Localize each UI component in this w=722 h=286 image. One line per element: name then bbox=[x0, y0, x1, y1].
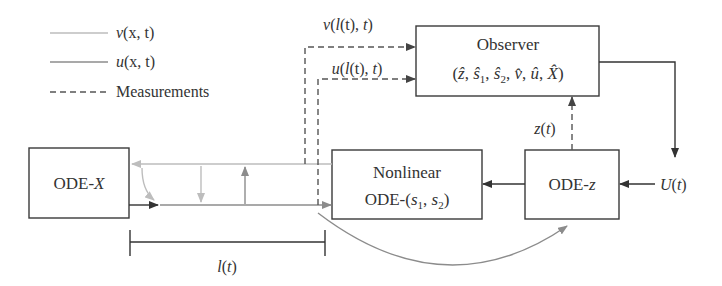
input-label: U(t) bbox=[660, 176, 687, 194]
legend-item-v: v(x, t) bbox=[50, 24, 154, 42]
observer-title: Observer bbox=[477, 35, 540, 54]
ode-x-label: ODE-X bbox=[54, 174, 106, 193]
block-diagram: v(x, t) u(x, t) Measurements ODE-X Nonli… bbox=[0, 0, 722, 286]
diagram-svg: v(x, t) u(x, t) Measurements ODE-X Nonli… bbox=[0, 0, 722, 286]
legend: v(x, t) u(x, t) Measurements bbox=[50, 24, 209, 100]
block-nonlinear-ode: Nonlinear ODE-(s1, s2) bbox=[332, 150, 482, 219]
legend-label-measurements: Measurements bbox=[116, 83, 209, 100]
nonlinear-label-line1: Nonlinear bbox=[373, 163, 441, 182]
block-observer: Observer (ẑ, ŝ1, ŝ2, v̂, û, X̂) bbox=[416, 26, 599, 96]
block-ode-x: ODE-X bbox=[29, 148, 129, 218]
length-label: l(t) bbox=[217, 258, 237, 276]
ode-z-label: ODE-z bbox=[548, 175, 596, 194]
observer-output-arrow-icon bbox=[599, 62, 675, 157]
nonlinear-label-line2: ODE-(s1, s2) bbox=[365, 190, 450, 211]
legend-label-u: u(x, t) bbox=[116, 53, 155, 71]
block-ode-z: ODE-z bbox=[525, 150, 619, 219]
v-measurement-label: v(l(t), t) bbox=[323, 16, 373, 34]
boundary-reflection-arrow-icon bbox=[142, 168, 154, 200]
legend-item-u: u(x, t) bbox=[50, 53, 155, 71]
u-measurement-label: u(l(t), t) bbox=[332, 60, 383, 78]
legend-item-measurements: Measurements bbox=[50, 83, 209, 100]
z-measurement-label: z(t) bbox=[533, 120, 555, 138]
boundary-to-ode-z-arrow-icon bbox=[318, 213, 567, 265]
legend-label-v: v(x, t) bbox=[116, 24, 154, 42]
observer-states: (ẑ, ŝ1, ŝ2, v̂, û, X̂) bbox=[452, 64, 563, 85]
domain-length: l(t) bbox=[130, 230, 325, 276]
